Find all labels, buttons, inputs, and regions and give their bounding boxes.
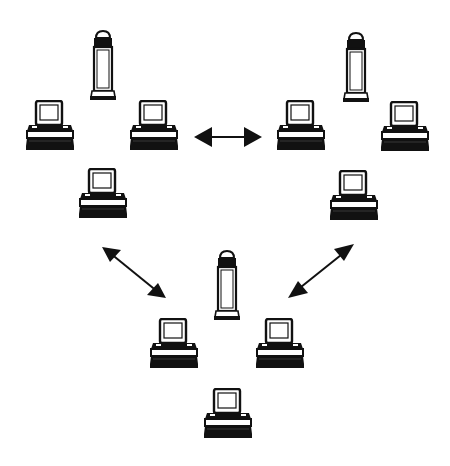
bidirectional-arrow-icon [194, 127, 262, 147]
connection-arrows [0, 0, 450, 466]
bidirectional-arrow-icon [288, 244, 354, 298]
bidirectional-arrow-icon [102, 247, 166, 298]
